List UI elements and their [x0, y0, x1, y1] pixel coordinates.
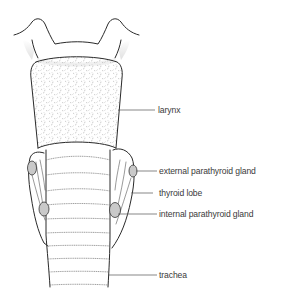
- label-trachea: trachea: [159, 270, 187, 280]
- label-external-parathyroid-gland: external parathyroid gland: [159, 166, 256, 176]
- left-internal-gland: [39, 202, 49, 216]
- thyroid-right-lobe: [112, 149, 134, 248]
- larynx-shape: [31, 57, 123, 148]
- left-external-gland: [28, 161, 37, 175]
- trachea-shape: [46, 150, 110, 287]
- anatomy-diagram: [0, 0, 284, 299]
- label-thyroid-lobe: thyroid lobe: [159, 188, 202, 198]
- parathyroid-glands: [28, 161, 138, 218]
- right-external-gland: [129, 165, 137, 177]
- right-internal-gland: [110, 203, 121, 218]
- label-internal-parathyroid-gland: internal parathyroid gland: [159, 209, 253, 219]
- label-larynx: larynx: [158, 105, 180, 115]
